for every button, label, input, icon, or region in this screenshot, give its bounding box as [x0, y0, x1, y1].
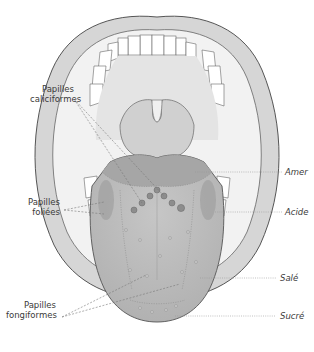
label-papilles-caliciformes: Papilles caliciformes: [30, 84, 74, 104]
bitter-zone: [102, 155, 212, 187]
label-sale: Salé: [280, 273, 298, 283]
label-amer: Amer: [285, 167, 308, 177]
label-papilles-fongiformes: Papilles fongiformes: [6, 300, 56, 320]
label-acide: Acide: [285, 207, 308, 217]
label-papilles-foliees: Papilles foliées: [10, 197, 60, 217]
label-sucre: Sucré: [280, 311, 304, 321]
foliate-left: [98, 180, 114, 220]
foliate-right: [200, 180, 216, 220]
